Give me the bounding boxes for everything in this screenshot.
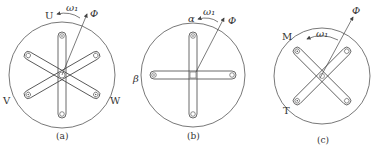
label-w: W <box>110 95 121 106</box>
winding-diagram-figure: U ω₁ Φ V W (a) α ω₁ Φ β (b) <box>0 0 374 153</box>
omega-arc-a <box>57 13 80 18</box>
caption-c: (c) <box>317 135 329 145</box>
label-alpha: α <box>188 13 195 24</box>
label-omega-a: ω₁ <box>66 2 78 13</box>
label-flux-b: Φ <box>228 15 236 26</box>
label-v: V <box>2 95 11 106</box>
diagram-b: α ω₁ Φ β (b) <box>132 6 245 141</box>
caption-b: (b) <box>187 131 200 141</box>
label-omega-c: ω₁ <box>316 28 328 39</box>
label-t: T <box>283 105 290 116</box>
omega-arc-b <box>198 18 218 22</box>
label-u: U <box>45 10 53 21</box>
caption-a: (a) <box>56 131 68 141</box>
diagram-a: U ω₁ Φ V W (a) <box>2 2 121 141</box>
label-flux-a: Φ <box>90 8 98 19</box>
label-omega-b: ω₁ <box>203 6 215 17</box>
diagram-c: M ω₁ Φ T (c) <box>274 5 370 145</box>
label-flux-c: Φ <box>352 5 360 16</box>
label-beta: β <box>132 73 139 84</box>
label-m: M <box>282 31 292 42</box>
